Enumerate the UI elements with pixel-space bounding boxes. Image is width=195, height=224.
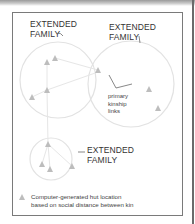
hut-icon — [146, 86, 152, 92]
hut-icon — [44, 87, 50, 93]
hut-markers — [19, 55, 161, 200]
legend-line-2: based on social distance between kin — [31, 201, 134, 209]
label-line: EXTENDED — [109, 22, 156, 32]
legend: Computer-generated hut location based on… — [31, 193, 134, 209]
hut-icon — [39, 161, 45, 167]
bottom-family-circle — [30, 138, 72, 180]
hut-icon — [45, 141, 51, 147]
hut-icon — [29, 94, 35, 100]
label-line: links — [108, 108, 128, 116]
label-line: EXTENDED — [87, 145, 134, 155]
label-line: FAMILY — [87, 155, 134, 165]
hut-icon — [47, 166, 53, 172]
family-label-right: EXTENDED FAMILY — [109, 22, 156, 42]
label-line: FAMILY — [109, 32, 156, 42]
left-family-circle — [20, 42, 96, 118]
hut-icon — [95, 67, 101, 73]
hut-icon — [52, 55, 58, 61]
family-label-bottom: EXTENDED FAMILY — [87, 145, 134, 165]
label-line: EXTENDED — [30, 19, 77, 29]
family-label-left: EXTENDED FAMILY — [30, 19, 77, 39]
label-line: FAMILY — [30, 29, 77, 39]
hut-icon — [44, 59, 50, 65]
kinship-links-label: primary kinship links — [108, 93, 128, 116]
legend-hut-icon — [19, 194, 25, 200]
label-line: kinship — [108, 101, 128, 109]
label-line: primary — [108, 93, 128, 101]
legend-line-1: Computer-generated hut location — [31, 193, 134, 201]
hut-icon — [155, 105, 161, 111]
